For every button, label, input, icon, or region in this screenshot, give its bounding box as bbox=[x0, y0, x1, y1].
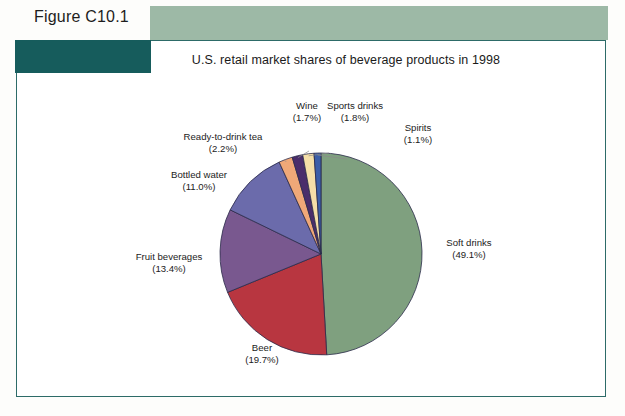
figure-page: Figure C10.1 U.S. retail market shares o… bbox=[0, 0, 625, 416]
header-teal-block bbox=[15, 40, 151, 73]
pie-label-name: Soft drinks bbox=[446, 237, 492, 248]
pie-label-name: Sports drinks bbox=[327, 100, 383, 111]
pie-slices bbox=[220, 153, 422, 355]
pie-label-value: (13.4%) bbox=[152, 263, 186, 274]
header-sage-band bbox=[150, 6, 608, 40]
pie-label-value: (1.1%) bbox=[404, 134, 432, 145]
pie-label-value: (2.2%) bbox=[209, 143, 237, 154]
pie-label-name: Bottled water bbox=[171, 169, 228, 180]
pie-label-value: (1.7%) bbox=[293, 112, 321, 123]
pie-label-name: Beer bbox=[252, 342, 273, 353]
pie-label-name: Wine bbox=[296, 100, 318, 111]
pie-label-value: (11.0%) bbox=[183, 181, 216, 192]
pie-label-name: Spirits bbox=[405, 122, 432, 133]
figure-label: Figure C10.1 bbox=[34, 8, 129, 26]
pie-label-value: (19.7%) bbox=[245, 354, 279, 365]
pie-label-value: (1.8%) bbox=[341, 112, 369, 123]
pie-label-value: (49.1%) bbox=[452, 249, 486, 260]
pie-slice-soft-drinks bbox=[321, 153, 422, 355]
pie-chart: Soft drinks(49.1%)Beer(19.7%)Fruit bever… bbox=[17, 41, 607, 398]
pie-label-name: Fruit beverages bbox=[136, 251, 203, 262]
pie-label-name: Ready-to-drink tea bbox=[184, 131, 264, 142]
chart-frame-inner: U.S. retail market shares of beverage pr… bbox=[17, 41, 605, 396]
chart-frame: U.S. retail market shares of beverage pr… bbox=[16, 40, 606, 397]
